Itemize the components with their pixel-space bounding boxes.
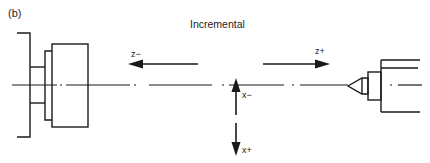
x-minus-label: x− [242,90,252,100]
z-plus-label: z+ [315,46,325,56]
z-minus-label: z− [131,49,141,59]
diagram-title: Incremental [190,18,245,30]
x-plus-arrow-icon [232,123,241,156]
z-minus-arrow-icon [128,60,198,69]
z-plus-arrow-icon [263,60,330,69]
tailstock [348,60,420,112]
x-minus-arrow-icon [232,78,241,115]
x-plus-label: x+ [242,145,252,155]
lathe-axes-diagram: (b) Incremental z− [0,0,430,163]
panel-label: (b) [8,7,21,19]
